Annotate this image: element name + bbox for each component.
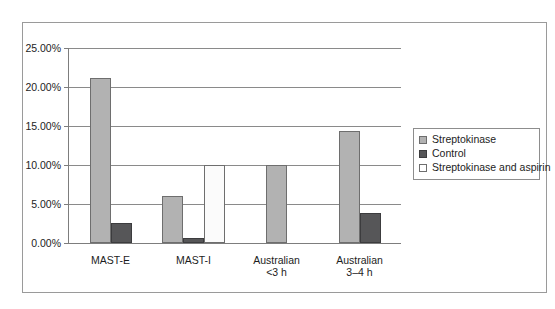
legend-swatch-control-icon: [419, 150, 427, 158]
bar-streptokinase-and-aspirin: [204, 165, 225, 243]
legend-swatch-streptokinase-and-aspirin-icon: [419, 164, 427, 172]
legend-label-streptokinase-and-aspirin: Streptokinase and aspirin: [432, 162, 551, 173]
gridline-000: [69, 243, 401, 244]
legend-label-control: Control: [432, 148, 466, 159]
bar-group: [318, 48, 401, 243]
bar-streptokinase: [90, 78, 111, 243]
legend-swatch-streptokinase-icon: [419, 136, 427, 144]
bar-group: [69, 48, 152, 243]
y-axis-tick-label: 5.00%: [31, 199, 61, 210]
bar-group: [235, 48, 318, 243]
x-axis-category-label: Australian <3 h: [253, 254, 300, 278]
bar-control: [183, 238, 204, 243]
legend-item-streptokinase-and-aspirin[interactable]: Streptokinase and aspirin: [419, 161, 534, 174]
chart-legend: Streptokinase Control Streptokinase and …: [413, 128, 540, 180]
legend-label-streptokinase: Streptokinase: [432, 134, 496, 145]
bar-group: [152, 48, 235, 243]
bar-streptokinase: [162, 196, 183, 243]
x-axis-category-label: MAST-E: [91, 254, 130, 266]
x-axis-category-label: Australian 3–4 h: [336, 254, 383, 278]
bar-streptokinase: [339, 131, 360, 243]
bar-control: [111, 223, 132, 243]
y-tick-mark: [64, 243, 69, 244]
x-axis-category-label: MAST-I: [176, 254, 211, 266]
y-axis-tick-label: 15.00%: [25, 121, 61, 132]
legend-item-streptokinase[interactable]: Streptokinase: [419, 133, 534, 146]
y-axis-tick-label: 0.00%: [31, 238, 61, 249]
bar-control: [360, 213, 381, 243]
y-axis-tick-label: 25.00%: [25, 43, 61, 54]
chart-figure-frame: 0.00%5.00%10.00%15.00%20.00%25.00% MAST-…: [22, 22, 547, 293]
bar-streptokinase: [266, 165, 287, 243]
legend-item-control[interactable]: Control: [419, 147, 534, 160]
y-axis-tick-label: 10.00%: [25, 160, 61, 171]
y-axis-tick-label: 20.00%: [25, 82, 61, 93]
chart-plot-area: 0.00%5.00%10.00%15.00%20.00%25.00% MAST-…: [68, 48, 401, 244]
